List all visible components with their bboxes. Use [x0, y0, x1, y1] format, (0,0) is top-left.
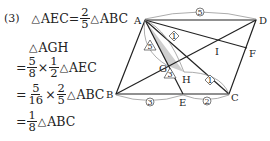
- svg-text:I: I: [215, 46, 219, 57]
- svg-text:G: G: [159, 63, 167, 74]
- geometry-diagram: 5 3 2 1 1 5 3 A D B C E F G H I: [0, 0, 270, 141]
- svg-text:F: F: [249, 48, 256, 59]
- svg-text:3: 3: [147, 98, 152, 107]
- svg-text:D: D: [259, 15, 267, 26]
- svg-text:B: B: [106, 89, 113, 100]
- svg-text:A: A: [133, 15, 142, 26]
- svg-text:1: 1: [171, 32, 176, 41]
- svg-text:3: 3: [167, 70, 172, 79]
- svg-text:2: 2: [204, 97, 209, 106]
- svg-text:H: H: [182, 74, 191, 85]
- svg-text:5: 5: [147, 42, 152, 51]
- svg-text:C: C: [231, 92, 239, 103]
- svg-text:1: 1: [207, 76, 212, 85]
- svg-text:5: 5: [197, 8, 202, 17]
- svg-text:E: E: [179, 97, 186, 108]
